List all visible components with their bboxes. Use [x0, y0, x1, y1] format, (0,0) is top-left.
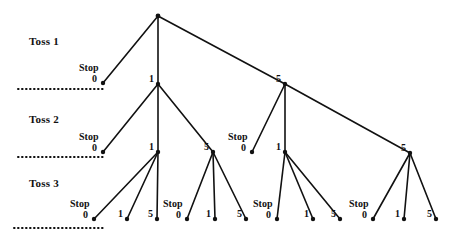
tree-node-dot[interactable] — [434, 217, 438, 221]
stop-word-label: Stop — [349, 198, 368, 209]
node-value-label: 5 — [401, 142, 406, 153]
node-value-label: 5 — [331, 208, 336, 219]
level-label-toss-3: Toss 3 — [29, 177, 59, 189]
tree-node-dot[interactable] — [92, 217, 96, 221]
node-value-label: 0 — [362, 209, 367, 220]
tree-node-dot[interactable] — [275, 217, 279, 221]
tree-node-dot[interactable] — [311, 217, 315, 221]
tree-edge — [127, 152, 158, 219]
node-value-label: 1 — [118, 208, 123, 219]
node-value-label: 0 — [92, 73, 97, 84]
node-value-label: 1 — [206, 208, 211, 219]
tree-node-dot[interactable] — [156, 14, 161, 19]
level-label-toss-2: Toss 2 — [29, 113, 59, 125]
node-value-label: 5 — [427, 208, 432, 219]
tree-nodes-layer — [92, 14, 438, 222]
node-value-label: 5 — [237, 208, 242, 219]
tree-node-dot[interactable] — [408, 151, 412, 155]
tree-node-dot[interactable] — [155, 217, 159, 221]
stop-word-label: Stop — [79, 131, 98, 142]
tree-node-dot[interactable] — [250, 150, 254, 154]
dotted-divider-layer — [14, 89, 106, 228]
tree-node-dot[interactable] — [125, 217, 129, 221]
node-value-label: 0 — [83, 209, 88, 220]
probability-tree-diagram — [0, 0, 459, 241]
tree-node-dot[interactable] — [283, 150, 287, 154]
node-value-label: 1 — [276, 141, 281, 152]
node-value-label: 0 — [266, 209, 271, 220]
tree-edge — [158, 16, 285, 84]
tree-edge — [285, 84, 410, 153]
stop-word-label: Stop — [79, 62, 98, 73]
node-value-label: 1 — [304, 208, 309, 219]
node-value-label: 0 — [241, 142, 246, 153]
tree-node-dot[interactable] — [244, 217, 248, 221]
tree-node-dot[interactable] — [283, 82, 287, 86]
tree-node-dot[interactable] — [156, 82, 160, 86]
node-value-label: 5 — [276, 73, 281, 84]
tree-node-dot[interactable] — [101, 150, 105, 154]
tree-node-dot[interactable] — [338, 217, 342, 221]
stop-word-label: Stop — [228, 131, 247, 142]
tree-edge — [277, 152, 285, 219]
stop-word-label: Stop — [253, 198, 272, 209]
tree-node-dot[interactable] — [101, 81, 105, 85]
tree-node-dot[interactable] — [402, 217, 406, 221]
tree-node-dot[interactable] — [371, 217, 375, 221]
stop-word-label: Stop — [163, 198, 182, 209]
node-value-label: 5 — [148, 208, 153, 219]
node-value-label: 1 — [149, 141, 154, 152]
level-label-toss-1: Toss 1 — [29, 35, 59, 47]
tree-node-dot[interactable] — [185, 217, 189, 221]
tree-edge — [213, 152, 215, 219]
stop-word-label: Stop — [70, 198, 89, 209]
tree-node-dot[interactable] — [156, 150, 160, 154]
tree-node-dot[interactable] — [211, 150, 215, 154]
node-value-label: 1 — [395, 208, 400, 219]
tree-node-dot[interactable] — [213, 217, 217, 221]
tree-edges-layer — [94, 16, 436, 219]
node-value-label: 0 — [92, 142, 97, 153]
node-value-label: 5 — [204, 141, 209, 152]
node-value-label: 1 — [149, 73, 154, 84]
tree-edge — [410, 153, 436, 219]
node-value-label: 0 — [176, 209, 181, 220]
tree-edge — [157, 152, 158, 219]
